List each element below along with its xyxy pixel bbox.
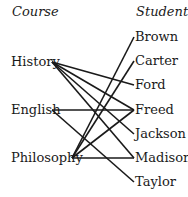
student-ford: Ford	[135, 77, 166, 93]
student-carter: Carter	[135, 53, 178, 69]
edge-english-taylor	[52, 110, 134, 182]
student-jackson: Jackson	[135, 126, 186, 142]
student-taylor: Taylor	[135, 174, 176, 190]
course-english: English	[11, 102, 61, 118]
student-freed: Freed	[135, 102, 174, 118]
course-philosophy: Philosophy	[11, 150, 83, 166]
edge-history-freed	[52, 62, 134, 110]
student-madison: Madison	[135, 150, 188, 166]
course-history: History	[11, 54, 60, 70]
student-brown: Brown	[135, 29, 178, 45]
